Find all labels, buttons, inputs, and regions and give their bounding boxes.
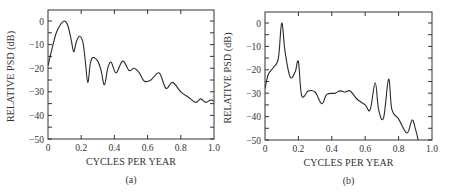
figure: 0−10−20−30−40−5000.20.40.60.81.0CYCLES P… xyxy=(0,0,449,195)
y-tick-label: 0 xyxy=(39,17,44,27)
psd-curve xyxy=(265,23,419,142)
chart-panel-b: 0−10−20−30−40−5000.20.40.60.81.0CYCLES P… xyxy=(222,12,438,187)
x-tick-label: 0 xyxy=(46,143,51,153)
x-tick-label: 0.8 xyxy=(175,143,187,153)
y-tick-label: −40 xyxy=(29,111,44,121)
y-tick-label: −50 xyxy=(246,136,261,146)
y-tick-label: −10 xyxy=(29,40,44,50)
x-tick-label: 0.6 xyxy=(142,143,154,153)
x-tick-label: 1.0 xyxy=(426,144,438,154)
x-tick-label: 0.2 xyxy=(75,143,87,153)
psd-curve xyxy=(48,21,214,103)
x-tick-label: 0.8 xyxy=(393,144,405,154)
x-axis-title: CYCLES PER YEAR xyxy=(303,157,393,168)
y-tick-label: −20 xyxy=(29,64,44,74)
panel-label: (a) xyxy=(125,174,136,186)
y-tick-label: −20 xyxy=(246,65,261,75)
x-tick-label: 0.4 xyxy=(326,144,338,154)
x-tick-label: 0 xyxy=(263,144,268,154)
x-tick-label: 1.0 xyxy=(208,143,220,153)
x-axis-title: CYCLES PER YEAR xyxy=(86,156,176,167)
x-tick-label: 0.6 xyxy=(359,144,371,154)
panel-label: (b) xyxy=(343,175,355,187)
y-tick-label: −40 xyxy=(246,112,261,122)
chart-panel-a: 0−10−20−30−40−5000.20.40.60.81.0CYCLES P… xyxy=(5,10,220,186)
plot-frame xyxy=(48,10,214,139)
x-tick-label: 0.4 xyxy=(108,143,120,153)
y-tick-label: −30 xyxy=(246,89,261,99)
y-tick-label: 0 xyxy=(256,19,261,29)
y-axis-title: RELATIVE PSD (dB) xyxy=(222,32,234,123)
x-tick-label: 0.2 xyxy=(292,144,304,154)
y-tick-label: −10 xyxy=(246,42,261,52)
y-tick-label: −30 xyxy=(29,87,44,97)
y-tick-label: −50 xyxy=(29,135,44,145)
y-axis-title: RELATIVE PSD (dB) xyxy=(5,31,17,122)
